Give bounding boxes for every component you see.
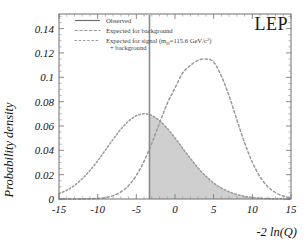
- y-tick-label: 0.12: [35, 47, 55, 59]
- x-tick-label: 5: [211, 203, 217, 215]
- y-tick-label: 0.02: [35, 169, 55, 181]
- x-tick-label: 0: [172, 203, 178, 215]
- x-tick-label: -5: [132, 203, 142, 215]
- figure-canvas: -15-10-5051015 00.020.040.060.080.10.120…: [0, 0, 305, 243]
- x-tick-label: -10: [90, 203, 105, 215]
- x-axis-title: -2 ln(Q): [256, 225, 297, 239]
- y-tick-label: 0.08: [35, 96, 55, 108]
- y-tick-label: 0.06: [35, 120, 55, 132]
- y-axis-title: Probability density: [2, 102, 16, 198]
- legend-label-signal-close: ): [209, 37, 211, 45]
- x-tick-label: 10: [247, 203, 259, 215]
- legend-label-background: Expected for background: [106, 27, 173, 34]
- y-tick-label: 0.14: [35, 23, 55, 35]
- legend-label-signal-tail: =115.6 GeV/c: [170, 37, 207, 44]
- y-tick-label: 0: [49, 193, 55, 205]
- legend-label-observed: Observed: [106, 17, 132, 24]
- y-tick-label: 0.1: [40, 71, 54, 83]
- legend-label-signal-line2: + background: [110, 44, 147, 51]
- x-tick-label: 15: [286, 203, 298, 215]
- experiment-label: LEP: [254, 14, 288, 34]
- y-tick-label: 0.04: [35, 144, 55, 156]
